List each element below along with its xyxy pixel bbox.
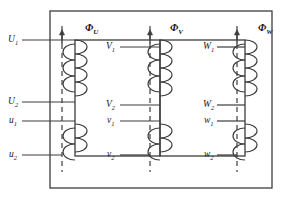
terminal-W1: W1 xyxy=(203,42,214,53)
limb-w-turn-inner-4 xyxy=(245,124,257,138)
terminal-U2-subscript: 2 xyxy=(15,101,18,108)
terminal-U2: U2 xyxy=(8,97,18,108)
limb-w-turn-inner-2 xyxy=(245,68,257,82)
limb-u-turn-outer-3 xyxy=(63,128,75,144)
limb-u-turn-inner-0 xyxy=(75,40,87,54)
terminal-u1: u1 xyxy=(9,116,17,127)
limb-u-turn-outer-1 xyxy=(63,60,75,76)
limb-w-turn-outer-4 xyxy=(233,144,245,160)
limb-v-turn-inner-4 xyxy=(160,124,172,138)
terminal-U1-subscript: 1 xyxy=(15,39,18,46)
flux-arrow-u-head xyxy=(59,30,64,36)
terminal-U2-base: U xyxy=(8,96,15,106)
lead-line-group xyxy=(22,40,245,155)
terminal-w1-subscript: 1 xyxy=(210,120,213,127)
terminal-w2-subscript: 2 xyxy=(210,154,213,161)
terminal-W1-base: W xyxy=(203,41,211,51)
phi-v: ΦV xyxy=(170,23,183,36)
terminal-V1: V1 xyxy=(106,42,115,53)
terminal-V2: V2 xyxy=(106,100,115,111)
limb-w-turn-outer-1 xyxy=(233,60,245,76)
terminal-w1: w1 xyxy=(204,116,214,127)
limb-w-turn-inner-0 xyxy=(245,40,257,54)
core-window-left xyxy=(75,40,160,156)
limb-u-turn-outer-4 xyxy=(63,144,75,160)
terminal-u2: u2 xyxy=(9,150,17,161)
limb-w-turn-outer-3 xyxy=(233,128,245,144)
limb-w-turn-inner-1 xyxy=(245,54,257,68)
limb-v-turn-inner-1 xyxy=(160,54,172,68)
terminal-v1: v1 xyxy=(107,116,114,127)
terminal-W2-base: W xyxy=(203,99,211,109)
limb-u-turn-outer-0 xyxy=(63,44,75,60)
core-outer-yoke xyxy=(50,11,272,188)
terminal-u1-subscript: 1 xyxy=(14,120,17,127)
flux-arrow-w-head xyxy=(234,30,239,36)
terminal-U1-base: U xyxy=(8,34,15,44)
terminal-v2-subscript: 2 xyxy=(111,154,114,161)
terminal-u2-subscript: 2 xyxy=(14,154,17,161)
phi-w: ΦW xyxy=(258,23,273,36)
limb-v-turn-inner-2 xyxy=(160,68,172,82)
limb-w-turn-inner-5 xyxy=(245,138,257,152)
core-frame-group xyxy=(50,11,272,188)
terminal-V2-subscript: 2 xyxy=(112,104,115,111)
transformer-core-diagram: ΦUΦVΦWU1U2u1u2V1V2v1v2W1W2w1w2 xyxy=(0,0,294,199)
terminal-v1-subscript: 1 xyxy=(111,120,114,127)
limb-u-turn-inner-1 xyxy=(75,54,87,68)
phi-u: ΦU xyxy=(85,23,98,36)
limb-u-turn-inner-3 xyxy=(75,82,87,96)
limb-v-turn-inner-0 xyxy=(160,40,172,54)
core-window-right xyxy=(160,40,245,156)
limb-w-turn-outer-2 xyxy=(233,76,245,92)
limb-u-turn-inner-2 xyxy=(75,68,87,82)
limb-v-turn-inner-5 xyxy=(160,138,172,152)
terminal-W1-subscript: 1 xyxy=(211,46,214,53)
terminal-v2: v2 xyxy=(107,150,114,161)
limb-u-turn-outer-2 xyxy=(63,76,75,92)
terminal-W2: W2 xyxy=(203,100,214,111)
limb-u-turn-inner-5 xyxy=(75,138,87,152)
phi-w-subscript: W xyxy=(266,28,272,36)
limb-u-turn-inner-4 xyxy=(75,124,87,138)
phi-u-subscript: U xyxy=(93,28,98,36)
flux-arrow-v-head xyxy=(147,30,152,36)
limb-w-turn-inner-3 xyxy=(245,82,257,96)
limb-v-turn-inner-3 xyxy=(160,82,172,96)
core-drawing xyxy=(0,0,294,199)
terminal-w2: w2 xyxy=(204,150,214,161)
phi-v-subscript: V xyxy=(178,28,183,36)
terminal-W2-subscript: 2 xyxy=(211,104,214,111)
terminal-V1-subscript: 1 xyxy=(112,46,115,53)
terminal-U1: U1 xyxy=(8,35,18,46)
